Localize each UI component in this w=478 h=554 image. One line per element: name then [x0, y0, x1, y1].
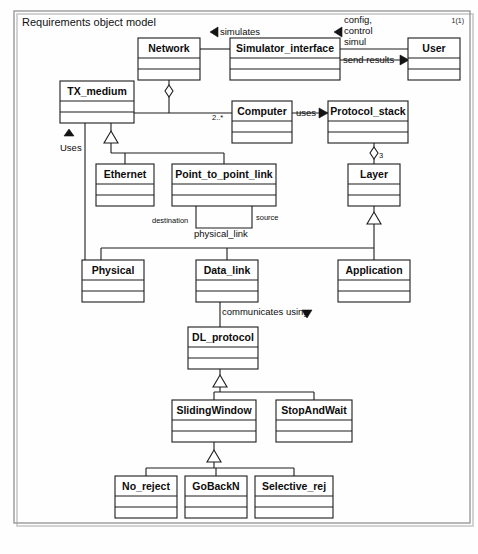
edge-label-config: config, — [344, 14, 372, 25]
edge-slidingwindow-subclasses — [146, 462, 294, 476]
edge-label-physical-link: physical_link — [194, 228, 248, 239]
edge-label-multiplicity-3: 3 — [379, 151, 383, 160]
class-box-application[interactable]: Application — [338, 260, 410, 302]
edge-label-uses-protocol: uses — [296, 107, 316, 118]
edge-physical-link-association — [196, 206, 252, 228]
uses-arrow-icon — [319, 108, 328, 118]
class-box-simulator-interface[interactable]: Simulator_interface — [230, 38, 340, 80]
network-aggregation-diamond-icon — [165, 85, 173, 97]
class-box-network[interactable]: Network — [138, 38, 200, 80]
class-box-user[interactable]: User — [408, 38, 460, 80]
class-name-stop-and-wait: StopAndWait — [281, 404, 347, 416]
class-box-layer: Network Simulator_interface User TX_medi… — [60, 38, 460, 518]
class-name-go-back-n: GoBackN — [192, 480, 239, 492]
class-name-ethernet: Ethernet — [104, 168, 147, 180]
class-name-network: Network — [148, 42, 190, 54]
class-box-sliding-window[interactable]: SlidingWindow — [172, 400, 256, 442]
edge-label-multiplicity-2-star: 2..* — [212, 113, 223, 122]
class-name-computer: Computer — [237, 105, 287, 117]
class-box-ethernet[interactable]: Ethernet — [96, 164, 154, 206]
class-box-layer[interactable]: Layer — [348, 164, 400, 206]
edge-label-uses-tx: Uses — [60, 142, 82, 153]
edge-dlprotocol-subclasses — [214, 387, 314, 400]
class-name-no-reject: No_reject — [122, 480, 170, 492]
edge-label-simulates: simulates — [220, 26, 260, 37]
class-name-tx-medium: TX_medium — [67, 85, 127, 97]
class-box-point-to-point-link[interactable]: Point_to_point_link — [172, 164, 276, 206]
protocol-aggregation-diamond-icon — [370, 147, 378, 159]
class-box-physical[interactable]: Physical — [82, 260, 144, 302]
edge-label-destination: destination — [152, 216, 188, 225]
diagram-page: Requirements object model 1(1) — [0, 0, 478, 554]
config-control-arrow-icon — [334, 27, 342, 37]
class-name-physical: Physical — [92, 264, 135, 276]
uml-class-diagram: Requirements object model 1(1) — [0, 0, 478, 554]
layer-generalization-triangle-icon — [367, 212, 381, 224]
edge-label-simul: simul — [344, 36, 366, 47]
edge-label-send-results: send results — [343, 54, 394, 65]
class-box-dl-protocol[interactable]: DL_protocol — [188, 327, 258, 369]
uses-tx-arrow-icon — [64, 129, 74, 136]
class-name-protocol-stack: Protocol_stack — [330, 105, 405, 117]
slidingwindow-generalization-triangle-icon — [207, 450, 221, 462]
page-number: 1(1) — [452, 17, 464, 25]
class-box-stop-and-wait[interactable]: StopAndWait — [276, 400, 352, 442]
edge-label-communicates-using: communicates using — [222, 306, 309, 317]
class-box-selective-rej[interactable]: Selective_rej — [255, 476, 333, 518]
class-box-tx-medium[interactable]: TX_medium — [60, 81, 134, 123]
edge-tx-subclasses — [111, 143, 224, 164]
class-name-sliding-window: SlidingWindow — [176, 404, 252, 416]
class-box-computer[interactable]: Computer — [232, 101, 292, 143]
edge-label-source: source — [256, 213, 279, 222]
class-name-dl-protocol: DL_protocol — [192, 331, 254, 343]
class-box-protocol-stack[interactable]: Protocol_stack — [328, 101, 408, 143]
class-box-data-link[interactable]: Data_link — [196, 260, 258, 302]
class-name-data-link: Data_link — [204, 264, 251, 276]
page-title: Requirements object model — [22, 16, 156, 28]
class-name-point-to-point-link: Point_to_point_link — [175, 168, 273, 180]
simulates-arrow-icon — [210, 27, 218, 37]
dlprotocol-generalization-triangle-icon — [213, 375, 227, 387]
edge-label-control: control — [344, 25, 373, 36]
class-name-selective-rej: Selective_rej — [262, 480, 326, 492]
class-name-layer: Layer — [360, 168, 388, 180]
tx-generalization-triangle-icon — [104, 131, 118, 143]
class-name-simulator-interface: Simulator_interface — [236, 42, 334, 54]
class-name-user: User — [422, 42, 445, 54]
class-box-no-reject[interactable]: No_reject — [115, 476, 177, 518]
class-name-application: Application — [345, 264, 402, 276]
class-box-go-back-n[interactable]: GoBackN — [185, 476, 247, 518]
